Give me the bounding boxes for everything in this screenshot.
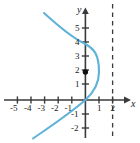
x-tick-label--3: -3 bbox=[38, 104, 46, 113]
y-tick-label-5: 5 bbox=[75, 24, 80, 33]
y-tick-label--2: -2 bbox=[71, 124, 79, 133]
y-axis-label: y bbox=[77, 5, 81, 15]
x-axis-label: x bbox=[131, 99, 135, 109]
parabola-curve bbox=[33, 13, 99, 139]
x-tick-label-2: 2 bbox=[111, 104, 116, 113]
plotted-point bbox=[83, 69, 88, 74]
y-tick-label-4: 4 bbox=[75, 38, 80, 47]
x-tick-label--4: -4 bbox=[24, 104, 32, 113]
y-tick-label-3: 3 bbox=[75, 52, 80, 61]
x-tick-label--2: -2 bbox=[51, 104, 59, 113]
x-tick-label-1: 1 bbox=[97, 104, 102, 113]
y-tick-label--1: -1 bbox=[71, 110, 79, 119]
y-tick-label-2: 2 bbox=[75, 66, 80, 75]
x-tick-label--5: -5 bbox=[10, 104, 18, 113]
coordinate-plane bbox=[0, 0, 140, 143]
graph-figure: -5 -4 -3 -2 -1 1 2 5 4 3 2 1 -1 -2 y x bbox=[0, 0, 140, 143]
y-tick-label-1: 1 bbox=[75, 80, 80, 89]
